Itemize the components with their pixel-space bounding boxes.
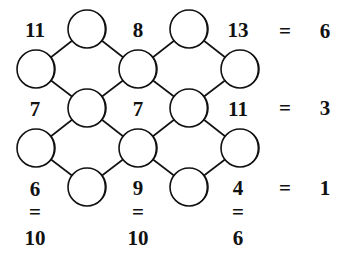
row3-target: 1 bbox=[320, 178, 331, 199]
row1-target: 6 bbox=[320, 21, 331, 42]
col3-target: 6 bbox=[233, 228, 244, 249]
row1-mid-number: 8 bbox=[133, 20, 144, 41]
circle-slot[interactable] bbox=[221, 129, 259, 167]
circle-slot[interactable] bbox=[119, 50, 157, 88]
circle-slot[interactable] bbox=[221, 50, 259, 88]
circle-slot[interactable] bbox=[170, 89, 208, 127]
row3-equals-sign: = bbox=[279, 178, 291, 199]
circle-slot[interactable] bbox=[170, 10, 208, 48]
row1-equals-sign: = bbox=[279, 21, 291, 42]
circle-slot[interactable] bbox=[17, 129, 55, 167]
circle-slot[interactable] bbox=[68, 168, 106, 206]
puzzle-grid bbox=[0, 0, 351, 263]
circle-slot[interactable] bbox=[17, 50, 55, 88]
col1-equals-sign: = bbox=[29, 202, 41, 223]
circle-slot[interactable] bbox=[170, 168, 208, 206]
circle-slot[interactable] bbox=[68, 10, 106, 48]
row2-right-number: 11 bbox=[228, 99, 248, 120]
row3-left-number: 6 bbox=[30, 179, 41, 200]
number-puzzle: 11 8 13 = 6 7 7 11 = 3 6 9 4 = 1 = 10 = … bbox=[0, 0, 351, 263]
row1-right-number: 13 bbox=[228, 20, 249, 41]
col2-target: 10 bbox=[128, 228, 149, 249]
col2-equals-sign: = bbox=[132, 202, 144, 223]
col1-target: 10 bbox=[25, 228, 46, 249]
row3-mid-number: 9 bbox=[133, 178, 144, 199]
circle-slot[interactable] bbox=[119, 129, 157, 167]
row3-right-number: 4 bbox=[233, 178, 244, 199]
row2-equals-sign: = bbox=[279, 98, 291, 119]
row2-left-number: 7 bbox=[30, 99, 41, 120]
row1-left-number: 11 bbox=[25, 20, 45, 41]
row2-target: 3 bbox=[320, 98, 331, 119]
circle-slot[interactable] bbox=[68, 89, 106, 127]
col3-equals-sign: = bbox=[232, 202, 244, 223]
row2-mid-number: 7 bbox=[133, 99, 144, 120]
